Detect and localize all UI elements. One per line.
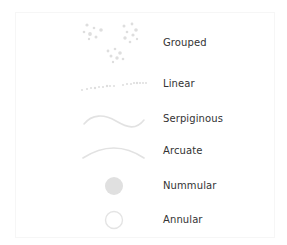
legend-label-annular: Annular [163, 214, 203, 226]
legend-row-annular: Annular [0, 208, 287, 232]
legend-label-grouped: Grouped [163, 37, 207, 49]
arcuate-arc-icon [70, 140, 160, 164]
filled-circle-icon [70, 174, 160, 198]
linear-dots-icon [70, 74, 160, 94]
legend-row-grouped: Grouped [0, 18, 287, 68]
grouped-dots-icon [70, 18, 160, 68]
legend-row-arcuate: Arcuate [0, 140, 287, 164]
serpiginous-wave-icon [70, 108, 160, 132]
legend-label-linear: Linear [163, 78, 195, 90]
ring-icon [70, 208, 160, 232]
legend-row-nummular: Nummular [0, 174, 287, 198]
legend-label-arcuate: Arcuate [163, 145, 202, 157]
legend-row-serpiginous: Serpiginous [0, 108, 287, 132]
legend-row-linear: Linear [0, 74, 287, 94]
legend-label-serpiginous: Serpiginous [163, 113, 223, 125]
legend-label-nummular: Nummular [163, 180, 216, 192]
